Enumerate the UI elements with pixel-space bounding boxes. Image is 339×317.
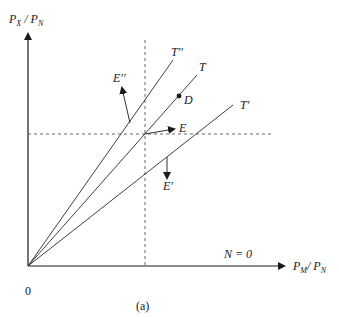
point-d-dot bbox=[177, 94, 182, 99]
origin-label: 0 bbox=[25, 285, 31, 297]
x-label-sep: / P bbox=[307, 259, 321, 273]
y-label-sep: / P bbox=[21, 12, 38, 26]
y-label-sub2: N bbox=[38, 19, 43, 28]
ray-label-t-prime: T′ bbox=[240, 99, 249, 111]
y-axis-label: PX / PN bbox=[9, 13, 43, 28]
region-label-n-zero: N = 0 bbox=[224, 248, 252, 260]
ray-label-t: T bbox=[199, 61, 206, 73]
x-label-sub2: N bbox=[321, 266, 326, 275]
x-label-sub1: M bbox=[300, 266, 307, 275]
arrow-label-e-prime: E′ bbox=[163, 180, 173, 192]
point-label-d: D bbox=[184, 94, 193, 106]
x-axis-label: PM/ PN bbox=[293, 260, 326, 275]
diagram-figure: PX / PN PM/ PN 0 (a) N = 0 T′′ T T′ D E … bbox=[0, 0, 339, 317]
diagram-canvas bbox=[0, 0, 339, 317]
arrow-e bbox=[145, 129, 174, 134]
ray-t-double-prime bbox=[28, 60, 173, 266]
arrow-label-e-double-prime: E′′ bbox=[113, 72, 126, 84]
ray-t-prime bbox=[28, 105, 233, 266]
ray-t bbox=[28, 75, 197, 266]
arrow-label-e: E bbox=[179, 122, 186, 134]
arrow-e-double-prime bbox=[122, 88, 130, 123]
ray-label-t-double-prime: T′′ bbox=[171, 46, 183, 58]
figure-caption: (a) bbox=[136, 300, 149, 312]
